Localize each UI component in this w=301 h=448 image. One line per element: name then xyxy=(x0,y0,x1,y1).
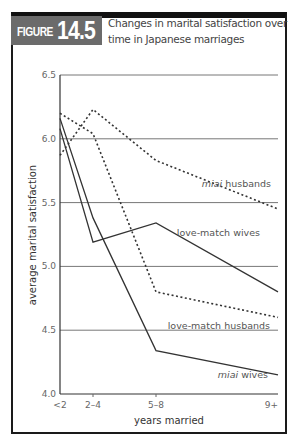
x-tick-label: 9+ xyxy=(265,400,278,410)
x-tick-label: 2–4 xyxy=(85,400,101,410)
series-line-miai-wives xyxy=(60,118,278,375)
line-chart: 6.56.05.55.04.54.0 <22–45–89+ miai husba… xyxy=(0,0,301,448)
y-tick-label: 4.0 xyxy=(42,389,57,399)
y-axis-label: average marital satisfaction xyxy=(27,165,38,305)
series-label: miai husbands xyxy=(202,178,271,189)
series-label: love-match husbands xyxy=(168,320,270,331)
series-line-miai-husbands xyxy=(60,110,278,210)
x-tick-label: <2 xyxy=(53,400,66,410)
x-tick-label: 5–8 xyxy=(148,400,164,410)
y-tick-label: 6.5 xyxy=(42,70,56,80)
gridlines xyxy=(60,75,278,330)
series-label: love-match wives xyxy=(177,227,260,238)
y-tick-label: 5.5 xyxy=(42,198,56,208)
series-line-love-match-wives xyxy=(60,129,278,292)
x-tick-labels: <22–45–89+ xyxy=(53,400,278,410)
y-tick-label: 5.0 xyxy=(42,261,57,271)
y-tick-label: 6.0 xyxy=(42,134,57,144)
series-label: miai wives xyxy=(218,369,268,380)
series-lines xyxy=(60,110,278,375)
y-tick-label: 4.5 xyxy=(42,325,56,335)
x-axis-label: years married xyxy=(134,415,204,426)
y-tick-labels: 6.56.05.55.04.54.0 xyxy=(42,70,57,399)
